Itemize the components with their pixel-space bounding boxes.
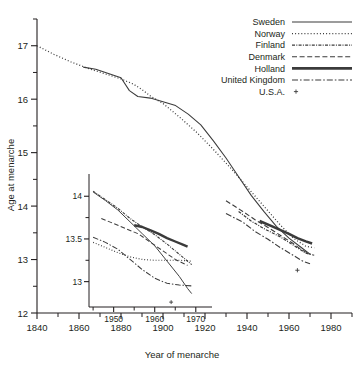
legend-swatch-usa-marker-icon bbox=[294, 90, 298, 94]
y-tick-label: 16 bbox=[17, 94, 28, 105]
legend-label-unitedkingdom: United Kingdom bbox=[221, 75, 285, 85]
x-tick-label: 1980 bbox=[320, 322, 341, 333]
inset-x-tick-label: 1970 bbox=[186, 314, 205, 324]
y-tick-label: 17 bbox=[17, 40, 28, 51]
figure-root: 1213141516171840186018801900192019401960… bbox=[0, 0, 364, 374]
menarche-age-line-chart: 1213141516171840186018801900192019401960… bbox=[0, 0, 364, 374]
inset-y-tick-label: 14 bbox=[73, 191, 83, 201]
x-axis-title: Year of menarche bbox=[145, 349, 220, 360]
x-tick-label: 1940 bbox=[236, 322, 257, 333]
y-tick-label: 14 bbox=[17, 201, 28, 212]
y-tick-label: 12 bbox=[17, 308, 28, 319]
inset-y-tick-label: 13 bbox=[73, 277, 83, 287]
x-tick-label: 1960 bbox=[278, 322, 299, 333]
legend-label-usa: U.S.A. bbox=[259, 87, 285, 97]
legend-label-norway: Norway bbox=[254, 29, 285, 39]
y-tick-label: 15 bbox=[17, 147, 28, 158]
y-axis-title: Age at menarche bbox=[5, 139, 16, 211]
legend: SwedenNorwayFinlandDenmarkHollandUnited … bbox=[221, 17, 352, 97]
y-tick-label: 13 bbox=[17, 254, 28, 265]
inset-x-tick-label: 1950 bbox=[104, 314, 123, 324]
inset-x-tick-label: 1960 bbox=[145, 314, 164, 324]
series-marker-usa bbox=[295, 268, 299, 272]
legend-label-denmark: Denmark bbox=[248, 52, 285, 62]
inset-y-tick-label: 13.5 bbox=[65, 234, 82, 244]
legend-label-finland: Finland bbox=[255, 40, 285, 50]
x-tick-label: 1860 bbox=[68, 322, 89, 333]
series-line-unitedkingdom bbox=[93, 237, 192, 286]
legend-label-holland: Holland bbox=[254, 64, 285, 74]
main-axes: 1213141516171840186018801900192019401960… bbox=[17, 19, 352, 333]
legend-label-sweden: Sweden bbox=[252, 17, 285, 27]
x-tick-label: 1840 bbox=[26, 322, 47, 333]
series-line-denmark bbox=[226, 201, 310, 254]
inset-series-group bbox=[93, 191, 192, 304]
inset-axes: 1313.514195019601970 bbox=[65, 174, 212, 324]
series-marker-usa bbox=[169, 300, 173, 304]
